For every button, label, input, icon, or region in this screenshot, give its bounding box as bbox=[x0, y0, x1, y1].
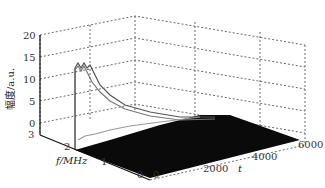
svg-text:2: 2 bbox=[64, 141, 70, 152]
svg-text:10: 10 bbox=[23, 74, 36, 85]
chart-3d-surface: 20 15 10 5 0 幅度/a.u. 3 2 1 0 f/MHz 0 200… bbox=[0, 0, 325, 188]
svg-text:3: 3 bbox=[28, 129, 34, 140]
svg-text:4000: 4000 bbox=[252, 151, 277, 162]
svg-text:15: 15 bbox=[23, 52, 36, 63]
svg-text:0: 0 bbox=[29, 118, 35, 129]
svg-text:0: 0 bbox=[137, 169, 143, 180]
z-ticks: 20 15 10 5 0 bbox=[23, 30, 36, 129]
svg-text:6000: 6000 bbox=[298, 139, 323, 150]
svg-text:0: 0 bbox=[153, 169, 159, 180]
t-axis-label: t bbox=[238, 163, 243, 174]
z-axis-label: 幅度/a.u. bbox=[4, 68, 16, 110]
svg-text:2000: 2000 bbox=[203, 163, 228, 174]
svg-text:20: 20 bbox=[23, 30, 36, 41]
svg-text:1: 1 bbox=[101, 156, 107, 167]
f-axis-label: f/MHz bbox=[55, 155, 88, 166]
svg-text:5: 5 bbox=[29, 96, 35, 107]
surface-floor bbox=[75, 115, 300, 178]
